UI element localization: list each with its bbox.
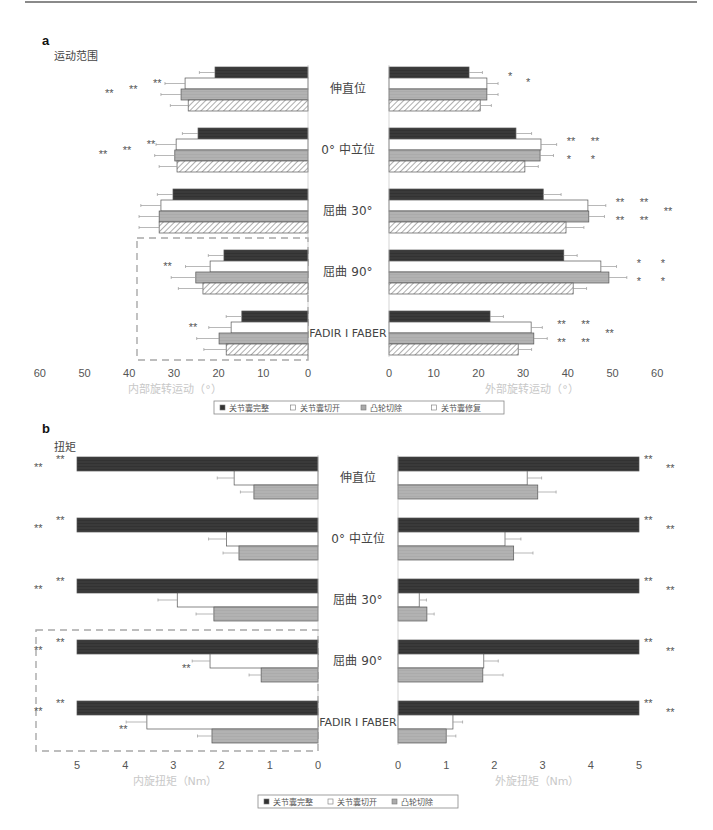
- legend-label: 关节囊完整: [273, 797, 313, 807]
- significance-marker: **: [557, 318, 566, 330]
- left-axis-tick: 30: [168, 367, 180, 379]
- significance-marker: **: [34, 644, 43, 656]
- bar-left-cam-resection: [239, 546, 318, 560]
- bar-right-intact: [398, 457, 639, 471]
- significance-marker: **: [567, 135, 576, 147]
- significance-marker: **: [189, 321, 198, 333]
- right-axis-tick: 0: [386, 367, 392, 379]
- bar-right-capsule-repair: [389, 344, 518, 355]
- significance-marker: **: [99, 148, 108, 160]
- bar-right-capsulotomy: [398, 471, 527, 485]
- bar-right-cam-resection: [389, 150, 540, 161]
- significance-marker: **: [56, 453, 65, 465]
- right-axis-tick: 10: [428, 367, 440, 379]
- bar-left-cam-resection: [254, 485, 318, 499]
- bar-right-capsule-repair: [389, 100, 480, 111]
- significance-marker: **: [34, 522, 43, 534]
- significance-marker: **: [56, 636, 65, 648]
- significance-marker: **: [640, 214, 649, 226]
- significance-marker: **: [581, 318, 590, 330]
- significance-marker: **: [129, 83, 138, 95]
- significance-marker: **: [666, 645, 675, 657]
- left-axis-tick: 60: [34, 367, 46, 379]
- panel-b-torque-chart: 伸直位0° 中立位屈曲 30°屈曲 90°FADIR I FABER543210…: [34, 453, 675, 808]
- category-label: FADIR I FABER: [309, 327, 387, 340]
- bar-left-capsulotomy: [185, 78, 308, 89]
- panel-a-range-of-motion-chart: 伸直位0° 中立位屈曲 30°屈曲 90°FADIR I FABER605040…: [34, 65, 673, 414]
- left-axis-tick: 1: [267, 759, 273, 771]
- bar-right-cam-resection: [389, 333, 534, 344]
- category-label: 伸直位: [330, 81, 366, 96]
- left-axis-tick: 40: [123, 367, 135, 379]
- bar-right-cam-resection: [398, 668, 483, 682]
- bar-left-capsulotomy: [234, 471, 318, 485]
- legend-label: 关节囊修复: [441, 403, 481, 413]
- bar-left-capsulotomy: [210, 654, 318, 668]
- legend-label: 凸轮切除: [401, 797, 433, 807]
- bar-right-cam-resection: [398, 485, 538, 499]
- left-axis-tick: 10: [257, 367, 269, 379]
- significance-marker: **: [119, 723, 128, 735]
- significance-marker: **: [147, 138, 156, 150]
- legend-label: 关节囊切开: [300, 403, 340, 413]
- intact-legend-icon: [220, 405, 225, 410]
- right-axis-tick: 5: [636, 759, 642, 771]
- left-axis-tick: 20: [212, 367, 224, 379]
- bar-left-capsule-repair: [159, 222, 308, 233]
- significance-marker: **: [666, 584, 675, 596]
- category-label: 屈曲 90°: [333, 654, 382, 668]
- significance-marker: *: [567, 153, 572, 165]
- significance-marker: **: [644, 697, 653, 709]
- right-axis-tick: 3: [540, 759, 546, 771]
- significance-marker: **: [666, 462, 675, 474]
- left-axis-tick: 4: [122, 759, 128, 771]
- panel-a-letter: a: [42, 33, 50, 48]
- significance-marker: **: [640, 196, 649, 208]
- significance-marker: *: [637, 257, 642, 269]
- significance-marker: **: [581, 336, 590, 348]
- bar-right-intact: [389, 189, 543, 200]
- bar-right-capsulotomy: [398, 654, 484, 668]
- significance-marker: **: [644, 453, 653, 465]
- significance-marker: **: [616, 214, 625, 226]
- figure-canvas: a 运动范围 伸直位0° 中立位屈曲 30°屈曲 90°FADIR I FABE…: [0, 0, 713, 830]
- bar-left-intact: [77, 457, 318, 471]
- bar-left-intact: [242, 311, 308, 322]
- bar-right-cam-resection: [398, 729, 446, 743]
- significance-marker: **: [644, 636, 653, 648]
- right-axis-tick: 20: [472, 367, 484, 379]
- significance-marker: **: [644, 575, 653, 587]
- significance-marker: **: [34, 705, 43, 717]
- significance-marker: **: [34, 461, 43, 473]
- category-label: FADIR I FABER: [319, 716, 397, 729]
- bar-left-capsulotomy: [231, 322, 308, 333]
- bar-right-capsule-repair: [389, 161, 525, 172]
- left-axis-tick: 3: [170, 759, 176, 771]
- bar-left-capsule-repair: [177, 161, 308, 172]
- legend-label: 关节囊完整: [229, 403, 269, 413]
- left-axis-title: 内旋扭矩（Nm）: [133, 774, 218, 788]
- significance-marker: *: [591, 153, 596, 165]
- right-axis-title: 外旋扭矩（Nm）: [495, 774, 580, 788]
- panel-b-letter: b: [42, 421, 50, 436]
- bar-right-capsulotomy: [398, 532, 505, 546]
- cam-resection-legend-icon: [392, 799, 397, 804]
- right-axis-tick: 60: [651, 367, 663, 379]
- bar-left-intact: [215, 67, 308, 78]
- significance-marker: **: [163, 260, 172, 272]
- bar-left-intact: [77, 640, 318, 654]
- category-label: 0° 中立位: [321, 142, 374, 157]
- category-label: 屈曲 30°: [323, 204, 372, 218]
- left-axis-title: 内部旋转运动（°）: [128, 382, 222, 396]
- bar-left-capsulotomy: [226, 532, 318, 546]
- bar-left-cam-resection: [196, 272, 308, 283]
- category-label: 屈曲 90°: [323, 265, 372, 279]
- significance-marker: **: [666, 706, 675, 718]
- significance-marker: **: [105, 87, 114, 99]
- left-axis-tick: 5: [74, 759, 80, 771]
- intact-legend-icon: [264, 799, 269, 804]
- bar-right-intact: [389, 67, 469, 78]
- right-axis-tick: 50: [606, 367, 618, 379]
- right-axis-tick: 0: [395, 759, 401, 771]
- bar-left-capsulotomy: [210, 261, 308, 272]
